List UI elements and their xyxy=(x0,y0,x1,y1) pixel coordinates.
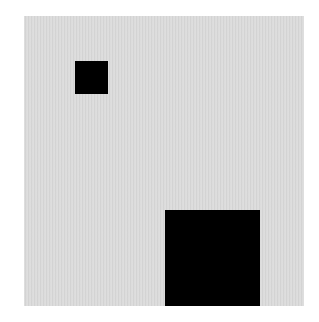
small-black-square xyxy=(75,61,108,94)
large-black-square xyxy=(165,210,260,306)
gray-panel xyxy=(24,16,304,306)
